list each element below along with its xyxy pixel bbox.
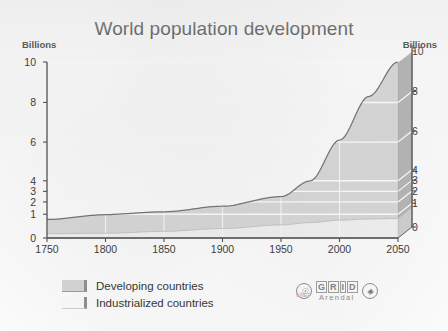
x-tick-2050: 2050 xyxy=(386,243,409,255)
y-tick-left-8: 8 xyxy=(30,96,36,108)
page-title: World population development xyxy=(0,18,448,40)
legend-swatch-developing xyxy=(62,280,87,292)
y-axis-unit-left: Billions xyxy=(22,39,56,50)
x-tick-1750: 1750 xyxy=(35,243,58,255)
plot-area xyxy=(47,62,398,238)
chart-legend: Developing countries Industrialized coun… xyxy=(62,277,214,311)
legend-label-industrialized: Industrialized countries xyxy=(96,297,214,309)
area-chart-svg xyxy=(47,62,398,238)
un-emblem-icon: ◈ xyxy=(362,283,378,299)
y-axis-right: 108643210 xyxy=(412,62,440,238)
legend-label-developing: Developing countries xyxy=(96,280,203,292)
x-tick-1950: 1950 xyxy=(269,243,292,255)
chart-3d-side-face xyxy=(398,51,412,238)
x-tick-2000: 2000 xyxy=(328,243,351,255)
x-axis: 1750180018501900195020002050 xyxy=(47,243,398,257)
legend-item-developing: Developing countries xyxy=(62,277,214,294)
grid-letter-D: D xyxy=(347,281,358,293)
legend-swatch-industrialized xyxy=(62,297,87,309)
arendal-label: Arendal xyxy=(316,294,358,302)
y-tick-left-6: 6 xyxy=(30,136,36,148)
y-tick-left-10: 10 xyxy=(24,56,36,68)
legend-item-industrialized: Industrialized countries xyxy=(62,294,214,311)
chart-figure: World population development Billions Bi… xyxy=(0,0,448,331)
grid-wordmark: GRID Arendal xyxy=(316,281,358,302)
y-tick-left-2: 2 xyxy=(30,196,36,208)
y-tick-left-1: 1 xyxy=(30,208,36,220)
x-tick-1850: 1850 xyxy=(152,243,175,255)
unep-sublabel: UNEP xyxy=(296,292,311,298)
grid-letter-R: R xyxy=(328,281,339,293)
grid-letters: GRID xyxy=(316,281,358,293)
y-axis-left: 108643210 xyxy=(10,62,36,238)
x-tick-1900: 1900 xyxy=(211,243,234,255)
grid-letter-G: G xyxy=(316,281,327,293)
x-tick-1800: 1800 xyxy=(94,243,117,255)
grid-letter-I: I xyxy=(340,281,347,293)
